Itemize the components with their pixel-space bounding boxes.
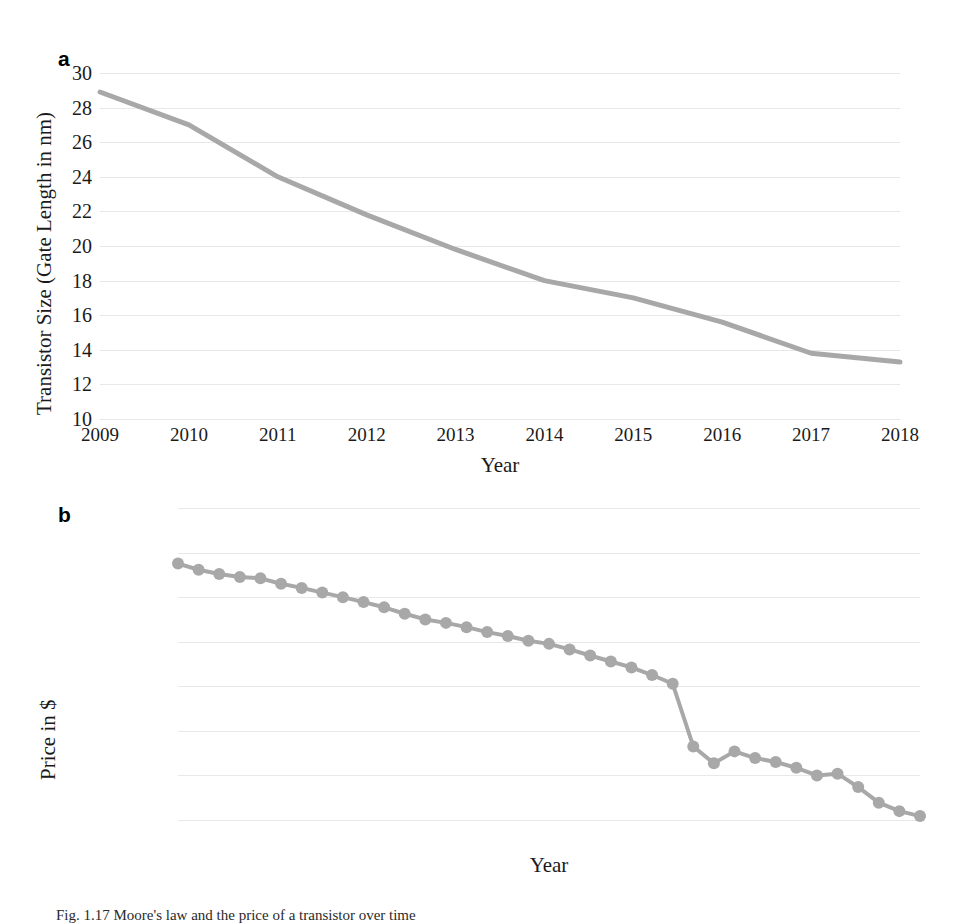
data-point-marker-9	[358, 596, 370, 608]
data-point-marker-33	[852, 781, 864, 793]
figure-container: a Transistor Size (Gate Length in nm) 30…	[0, 0, 960, 924]
data-point-marker-2	[213, 568, 225, 580]
panel-a-ytick-6: 18	[72, 271, 92, 291]
panel-a-ytick-3: 24	[72, 167, 92, 187]
data-point-marker-12	[419, 613, 431, 625]
panel-a-plot-area	[100, 73, 900, 419]
data-point-marker-5	[275, 578, 287, 590]
data-point-marker-18	[543, 638, 555, 650]
data-point-marker-25	[687, 740, 699, 752]
data-point-marker-27	[729, 745, 741, 757]
data-point-marker-13	[440, 617, 452, 629]
data-point-marker-10	[378, 601, 390, 613]
panel-a-xtick-3: 2012	[348, 425, 386, 444]
panel-a-xtick-0: 2009	[81, 425, 119, 444]
data-point-marker-7	[316, 587, 328, 599]
data-point-marker-26	[708, 757, 720, 769]
gridline	[100, 419, 900, 420]
data-point-marker-35	[893, 805, 905, 817]
data-point-marker-3	[234, 571, 246, 583]
data-point-marker-6	[296, 582, 308, 594]
panel-a-letter: a	[58, 48, 70, 69]
panel-a-ytick-9: 12	[72, 374, 92, 394]
panel-b: b Price in $ 1.00E-051.00E-071.00E-091.0…	[0, 480, 960, 900]
data-point-marker-16	[502, 630, 514, 642]
data-point-marker-20	[584, 650, 596, 662]
panel-a-y-axis-title: Transistor Size (Gate Length in nm)	[34, 112, 55, 415]
data-point-marker-24	[667, 678, 679, 690]
data-point-marker-30	[790, 762, 802, 774]
data-point-marker-17	[522, 635, 534, 647]
data-point-marker-34	[873, 797, 885, 809]
data-point-marker-14	[461, 621, 473, 633]
panel-a-xtick-1: 2010	[170, 425, 208, 444]
data-point-marker-19	[564, 643, 576, 655]
panel-a-xtick-7: 2016	[703, 425, 741, 444]
data-point-marker-29	[770, 756, 782, 768]
data-point-marker-15	[481, 626, 493, 638]
panel-a-ytick-4: 22	[72, 201, 92, 221]
data-point-marker-31	[811, 769, 823, 781]
gridline	[178, 820, 920, 821]
data-point-marker-21	[605, 655, 617, 667]
data-point-marker-1	[193, 564, 205, 576]
panel-b-data-markers	[172, 558, 926, 822]
panel-a-ytick-0: 30	[72, 63, 92, 83]
data-point-marker-36	[914, 810, 926, 822]
panel-a-x-axis-title: Year	[100, 455, 900, 476]
data-point-marker-32	[832, 768, 844, 780]
data-point-marker-22	[625, 661, 637, 673]
panel-a-xtick-2: 2011	[259, 425, 296, 444]
panel-a-ytick-8: 14	[72, 340, 92, 360]
panel-a-xtick-6: 2015	[614, 425, 652, 444]
panel-a-ytick-2: 26	[72, 132, 92, 152]
panel-a-series-line	[100, 73, 900, 419]
panel-a-ytick-7: 16	[72, 305, 92, 325]
panel-b-series-line	[178, 508, 920, 820]
data-point-marker-0	[172, 558, 184, 570]
data-point-marker-11	[399, 608, 411, 620]
panel-a-ytick-5: 20	[72, 236, 92, 256]
panel-b-plot-area	[178, 508, 920, 820]
panel-b-letter: b	[58, 504, 71, 525]
data-point-marker-28	[749, 752, 761, 764]
panel-a-xtick-9: 2018	[881, 425, 919, 444]
panel-b-y-axis-title: Price in $	[38, 700, 59, 780]
data-point-marker-8	[337, 591, 349, 603]
panel-a: a Transistor Size (Gate Length in nm) 30…	[0, 0, 960, 480]
figure-caption: Fig. 1.17 Moore's law and the price of a…	[56, 906, 936, 924]
data-point-marker-23	[646, 669, 658, 681]
panel-a-xtick-8: 2017	[792, 425, 830, 444]
panel-b-x-axis-title: Year	[178, 855, 920, 876]
panel-a-ytick-1: 28	[72, 98, 92, 118]
data-point-marker-4	[254, 572, 266, 584]
panel-a-xtick-4: 2013	[437, 425, 475, 444]
panel-a-xtick-5: 2014	[525, 425, 563, 444]
